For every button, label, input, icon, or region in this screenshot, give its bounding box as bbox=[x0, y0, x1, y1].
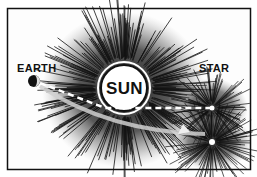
actual-star-dot bbox=[209, 139, 215, 145]
sun-label: SUN bbox=[106, 79, 143, 99]
apparent-star-dot bbox=[210, 106, 215, 111]
earth-icon bbox=[28, 75, 40, 87]
star-label: STAR bbox=[199, 62, 229, 74]
earth-label: EARTH bbox=[17, 62, 56, 74]
